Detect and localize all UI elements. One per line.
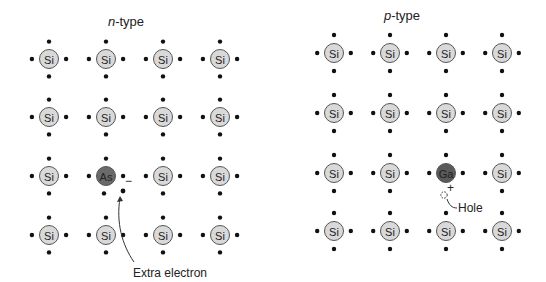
valence-electron xyxy=(315,111,319,115)
p-type-lattice: SiSiSiSiSiSiSiSiSiSiGaSiSiSiSiSi xyxy=(315,33,521,251)
valence-electron xyxy=(144,174,148,178)
valence-electron xyxy=(427,229,431,233)
si-atom: Si xyxy=(437,44,456,63)
lattice-diagrams: SiSiSiSiSiSiSiSiSiAsSiSiSiSiSiSi SiSiSiS… xyxy=(0,0,546,282)
valence-electron xyxy=(47,156,51,160)
valence-electron xyxy=(388,93,392,97)
valence-electron xyxy=(332,69,336,73)
valence-electron xyxy=(87,57,91,61)
valence-electron xyxy=(235,57,239,61)
valence-electron xyxy=(30,115,34,119)
valence-electron xyxy=(104,97,108,101)
atom-symbol: Si xyxy=(329,226,339,238)
valence-electron xyxy=(47,74,51,78)
valence-electron xyxy=(315,51,319,55)
si-atom: Si xyxy=(154,226,173,245)
valence-electron xyxy=(218,97,222,101)
atom-symbol: Si xyxy=(158,112,168,124)
atom-symbol: Si xyxy=(329,168,339,180)
valence-electron xyxy=(349,111,353,115)
si-atom: Si xyxy=(211,108,230,127)
atom-symbol: Si xyxy=(385,108,395,120)
valence-electron xyxy=(178,233,182,237)
valence-electron xyxy=(332,93,336,97)
valence-electron xyxy=(47,215,51,219)
atom-symbol: Si xyxy=(329,108,339,120)
valence-electron xyxy=(178,174,182,178)
valence-electron xyxy=(64,57,68,61)
valence-electron xyxy=(349,51,353,55)
atom-symbol: Si xyxy=(101,230,111,242)
atom-symbol: Si xyxy=(497,226,507,238)
extra-electron-dot xyxy=(121,189,126,194)
valence-electron xyxy=(332,129,336,133)
si-atom: Si xyxy=(493,104,512,123)
valence-electron xyxy=(500,247,504,251)
valence-electron xyxy=(47,39,51,43)
valence-electron xyxy=(47,132,51,136)
valence-electron xyxy=(500,129,504,133)
valence-electron xyxy=(388,129,392,133)
valence-electron xyxy=(388,69,392,73)
atom-symbol: Si xyxy=(441,48,451,60)
atom-symbol: Si xyxy=(101,54,111,66)
valence-electron xyxy=(315,229,319,233)
atom-symbol: Si xyxy=(385,168,395,180)
ga-dopant-atom: Ga xyxy=(437,164,456,183)
valence-electron xyxy=(121,115,125,119)
si-atom: Si xyxy=(211,226,230,245)
valence-electron xyxy=(444,33,448,37)
valence-electron xyxy=(104,39,108,43)
atom-symbol: Si xyxy=(44,171,54,183)
atom-symbol: Si xyxy=(44,112,54,124)
valence-electron xyxy=(517,51,521,55)
valence-electron xyxy=(161,250,165,254)
si-atom: Si xyxy=(493,44,512,63)
si-atom: Si xyxy=(154,108,173,127)
valence-electron xyxy=(517,171,521,175)
valence-electron xyxy=(388,211,392,215)
valence-electron xyxy=(104,215,108,219)
valence-electron xyxy=(161,132,165,136)
valence-electron xyxy=(332,33,336,37)
atom-symbol: Si xyxy=(497,168,507,180)
valence-electron xyxy=(218,191,222,195)
valence-electron xyxy=(371,111,375,115)
valence-electron xyxy=(371,229,375,233)
valence-electron xyxy=(144,57,148,61)
valence-electron xyxy=(349,171,353,175)
valence-electron xyxy=(161,215,165,219)
valence-electron xyxy=(444,69,448,73)
valence-electron xyxy=(427,111,431,115)
valence-electron xyxy=(500,189,504,193)
valence-electron xyxy=(104,250,108,254)
valence-electron xyxy=(517,229,521,233)
valence-electron xyxy=(235,233,239,237)
valence-electron xyxy=(461,111,465,115)
valence-electron xyxy=(444,129,448,133)
valence-electron xyxy=(315,171,319,175)
valence-electron xyxy=(461,51,465,55)
atom-symbol: Si xyxy=(158,54,168,66)
valence-electron xyxy=(64,174,68,178)
valence-electron xyxy=(144,115,148,119)
si-atom: Si xyxy=(325,104,344,123)
valence-electron xyxy=(64,115,68,119)
valence-electron xyxy=(500,33,504,37)
valence-electron xyxy=(121,57,125,61)
valence-electron xyxy=(104,74,108,78)
semiconductor-doping-diagram: SiSiSiSiSiSiSiSiSiAsSiSiSiSiSiSi SiSiSiS… xyxy=(0,0,546,282)
valence-electron xyxy=(371,171,375,175)
valence-electron xyxy=(47,191,51,195)
si-atom: Si xyxy=(437,104,456,123)
si-atom: Si xyxy=(40,50,59,69)
valence-electron xyxy=(388,189,392,193)
atom-symbol: Si xyxy=(385,226,395,238)
valence-electron xyxy=(218,74,222,78)
valence-electron xyxy=(517,111,521,115)
valence-electron xyxy=(483,51,487,55)
si-atom: Si xyxy=(493,222,512,241)
valence-electron xyxy=(47,97,51,101)
atom-symbol: Si xyxy=(215,171,225,183)
valence-electron xyxy=(483,171,487,175)
